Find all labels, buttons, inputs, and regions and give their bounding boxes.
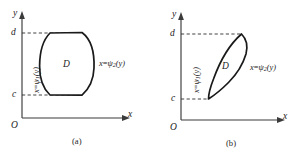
region-label-d-a: D bbox=[63, 60, 70, 70]
tick-label-c-a: c bbox=[12, 90, 16, 100]
right-curve-arg-b: (y) bbox=[267, 63, 276, 72]
left-curve-sub-a: 1 bbox=[35, 76, 41, 79]
origin-label-a: O bbox=[11, 121, 18, 131]
left-curve-label-a: x=ψ1(y) bbox=[33, 67, 41, 93]
panel-b: y x O d c D x=ψ1(y) x=ψ2(y) (b) bbox=[151, 0, 301, 160]
left-curve-label-b: x=ψ1(y) bbox=[193, 67, 201, 93]
left-curve-lhs-a: x bbox=[32, 89, 41, 93]
tick-label-c-b: c bbox=[171, 94, 175, 104]
left-curve-arg-b: (y) bbox=[192, 67, 201, 76]
x-axis-label-b: x bbox=[283, 112, 287, 122]
tick-label-d-b: d bbox=[170, 29, 175, 39]
panel-b-canvas bbox=[151, 0, 301, 160]
y-axis-arrowhead-b bbox=[178, 12, 184, 20]
panel-a: y x O d c D x=ψ1(y) x=ψ2(y) (a) bbox=[0, 0, 150, 160]
x-axis-label-a: x bbox=[128, 110, 132, 120]
right-curve-label-b: x=ψ2(y) bbox=[250, 64, 276, 72]
panel-caption-a: (a) bbox=[72, 137, 82, 146]
tick-label-d-a: d bbox=[11, 28, 16, 38]
right-curve-label-a: x=ψ2(y) bbox=[99, 60, 125, 68]
left-curve-eq-b: = bbox=[192, 85, 201, 90]
left-curve-lhs-b: x bbox=[192, 89, 201, 93]
left-curve-psi-b: ψ bbox=[192, 79, 201, 84]
left-curve-psi-a: ψ bbox=[32, 79, 41, 84]
y-axis-label-a: y bbox=[13, 9, 17, 19]
figure-root: y x O d c D x=ψ1(y) x=ψ2(y) (a) y x O d … bbox=[0, 0, 301, 160]
y-axis-label-b: y bbox=[172, 10, 176, 20]
panel-caption-b: (b) bbox=[226, 139, 236, 148]
left-curve-eq-a: = bbox=[32, 85, 41, 90]
origin-label-b: O bbox=[170, 123, 177, 133]
left-curve-sub-b: 1 bbox=[195, 76, 201, 79]
region-label-d-b: D bbox=[222, 62, 229, 72]
y-axis-arrowhead-a bbox=[19, 11, 25, 19]
left-curve-arg-a: (y) bbox=[32, 67, 41, 76]
right-curve-arg-a: (y) bbox=[116, 59, 125, 68]
